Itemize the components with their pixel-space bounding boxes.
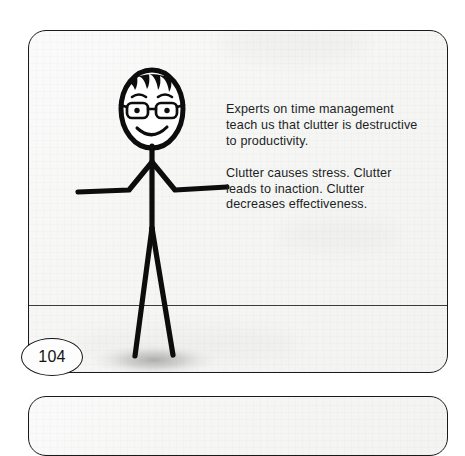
paper-texture: [29, 397, 447, 455]
left-leg: [135, 228, 152, 356]
left-eye: [134, 108, 139, 113]
caption-paragraph-1: Experts on time management teach us that…: [226, 102, 421, 150]
next-comic-panel: [28, 396, 448, 456]
right-leg: [152, 228, 173, 355]
ground-shadow-ellipse: [91, 344, 217, 373]
page-number-badge: 104: [21, 338, 83, 376]
right-eye: [164, 108, 169, 113]
left-arm: [78, 162, 152, 192]
comic-panel: Experts on time management teach us that…: [28, 30, 448, 373]
paper-blotch: [279, 221, 399, 251]
page-number-text: 104: [38, 349, 66, 365]
caption-block: Experts on time management teach us that…: [226, 102, 421, 213]
caption-paragraph-2: Clutter causes stress. Clutter leads to …: [226, 166, 421, 214]
right-arm: [152, 162, 227, 190]
